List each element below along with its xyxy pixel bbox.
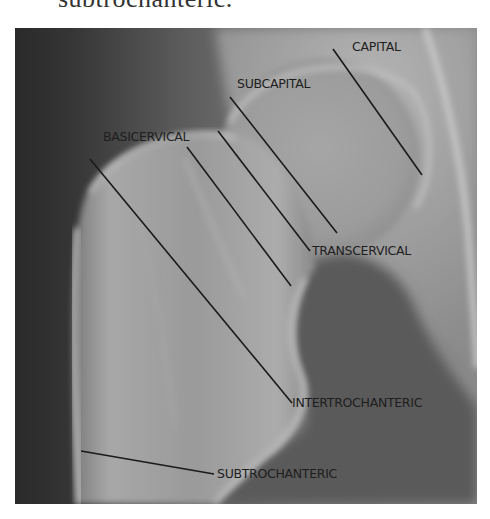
label-basicervical: BASICERVICAL [103, 130, 189, 144]
label-capital: CAPITAL [352, 40, 401, 54]
label-transcervical: TRANSCERVICAL [312, 244, 411, 258]
hip-xray-figure: CAPITAL SUBCAPITAL BASICERVICAL TRANSCER… [15, 28, 477, 504]
label-intertrochanteric: INTERTROCHANTERIC [292, 396, 422, 410]
label-subcapital: SUBCAPITAL [237, 77, 310, 91]
xray-image [15, 28, 477, 504]
label-subtrochanteric: SUBTROCHANTERIC [217, 467, 337, 481]
figure-caption-fragment: subtrochanteric. [58, 0, 233, 14]
